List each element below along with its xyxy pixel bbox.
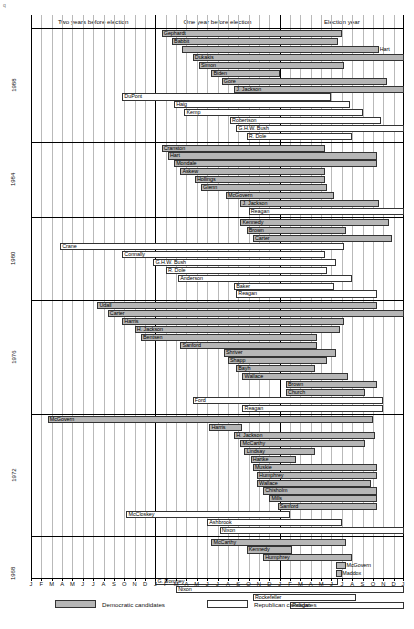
candidate-label: Cranston: [163, 145, 186, 152]
month-tick-label: F: [36, 581, 46, 587]
candidate-bar: Reagan: [236, 290, 377, 297]
candidate-label: Brown: [287, 381, 303, 388]
month-tick-label: A: [347, 581, 357, 587]
plot-edge-left: [31, 15, 32, 578]
candidate-label: Hart: [169, 152, 180, 159]
month-tick-label: N: [254, 581, 264, 587]
candidate-label: DuPont: [123, 93, 142, 100]
candidate-bar: McCloskey: [126, 511, 290, 518]
candidate-bar: J. Jackson: [240, 200, 379, 207]
candidate-bar: Connally: [122, 251, 325, 258]
cycle-separator-1968: [31, 536, 404, 537]
candidate-bar: Wallace: [242, 373, 348, 380]
candidate-bar: Brown: [286, 381, 377, 388]
candidate-label: Baker: [235, 283, 250, 290]
year-label-text: 1988: [0, 78, 71, 91]
month-tick-label: J: [78, 581, 88, 587]
month-tick-label: N: [130, 581, 140, 587]
candidate-label: Harris: [123, 318, 138, 325]
candidate-bar: McCarthy: [211, 539, 346, 546]
candidate-label: Biden: [212, 70, 227, 77]
candidate-label: Muskie: [254, 464, 272, 471]
candidate-label: Gore: [223, 78, 236, 85]
month-tick-label: O: [368, 581, 378, 587]
candidate-bar: R. Dole: [247, 133, 353, 140]
plot-edge-right: [403, 15, 404, 578]
candidate-bar: Carter: [108, 310, 404, 317]
candidate-label: Connally: [123, 251, 145, 258]
cycle-separator-1980: [31, 217, 404, 218]
candidate-bar: G.H.W. Bush: [153, 259, 335, 266]
candidate-bar: Crane: [60, 243, 344, 250]
month-tick-label: J: [275, 581, 285, 587]
candidate-label: Robertson: [231, 117, 257, 124]
candidate-bar: McGovern: [226, 192, 334, 199]
year-label-text: 1976: [0, 350, 71, 363]
gridline-month: [93, 15, 94, 578]
candidate-label: Bentsen: [142, 334, 163, 341]
month-tick-label: S: [358, 581, 368, 587]
candidate-bar: Ford: [193, 397, 384, 404]
month-tick-label: A: [99, 581, 109, 587]
candidate-bar: Haig: [174, 101, 350, 108]
candidate-bar: Maddox: [336, 570, 342, 577]
candidate-bar: Glenn: [201, 184, 327, 191]
candidate-label: Sanford: [279, 503, 299, 510]
candidate-label: Shapp: [229, 357, 246, 364]
candidate-bar: Church: [286, 389, 365, 396]
candidate-label: Simon: [200, 62, 216, 69]
candidate-bar: Udall: [97, 302, 377, 309]
month-axis: JFMAMJJASONDJFMAMJJASONDJFMAMJJASONDJ: [31, 578, 404, 592]
candidate-label: Anderson: [179, 275, 203, 282]
month-tick-label: J: [337, 581, 347, 587]
candidate-bar: Shriver: [224, 349, 336, 356]
candidate-bar: Wallace: [257, 480, 371, 487]
cycle-separator-1984: [31, 142, 404, 143]
month-tick-label: J: [150, 581, 160, 587]
candidate-label: Reagan: [250, 208, 270, 215]
candidate-label: Dukakis: [194, 54, 214, 61]
candidate-bar: Askew: [180, 168, 325, 175]
month-tick-label: J: [398, 581, 408, 587]
candidate-label: Kennedy: [241, 219, 263, 226]
candidate-label: Hart: [378, 46, 389, 53]
month-tick-label: D: [264, 581, 274, 587]
candidate-bar: McGovern: [336, 562, 346, 569]
candidate-label: Wallace: [258, 480, 278, 487]
gridline-month: [394, 15, 395, 578]
month-tick-label: N: [378, 581, 388, 587]
gridline-month: [114, 15, 115, 578]
candidate-bar: Robertson: [230, 117, 381, 124]
candidate-bar: Nixon: [220, 527, 404, 534]
month-tick-label: O: [244, 581, 254, 587]
candidate-bar: Gephardt: [162, 30, 342, 37]
gridline-month: [52, 15, 53, 578]
candidate-label: Ashbrook: [208, 519, 232, 526]
candidate-bar: Lindsay: [244, 448, 314, 455]
candidate-label: Church: [287, 389, 305, 396]
candidate-bar: Ashbrook: [207, 519, 342, 526]
month-tick-label: J: [213, 581, 223, 587]
candidate-label: Babbit: [173, 38, 189, 45]
candidate-bar: Reagan: [242, 405, 383, 412]
candidate-bar: Cranston: [162, 145, 326, 152]
candidate-bar: Gore: [222, 78, 388, 85]
year-label-1972: 1972: [0, 414, 28, 536]
month-tick-label: M: [67, 581, 77, 587]
year-label-1984: 1984: [0, 142, 28, 217]
candidate-label: Maddox: [341, 570, 361, 577]
candidate-label: Chisholm: [264, 487, 287, 494]
candidate-label: Hollings: [196, 176, 216, 183]
month-tick-label: F: [285, 581, 295, 587]
candidate-bar: Shapp: [228, 357, 327, 364]
candidate-label: Lindsay: [245, 448, 264, 455]
legend-swatch-republican: [207, 600, 248, 608]
candidate-bar: Hartke: [251, 456, 297, 463]
gridline-month: [83, 15, 84, 578]
candidate-label: Shriver: [225, 349, 243, 356]
candidate-label: Hartke: [252, 456, 269, 463]
candidate-bar: McGovern: [48, 416, 373, 423]
candidate-bar: Anderson: [178, 275, 352, 282]
year-label-1968: 1968: [0, 536, 28, 611]
legend-swatch-democratic: [55, 600, 96, 608]
